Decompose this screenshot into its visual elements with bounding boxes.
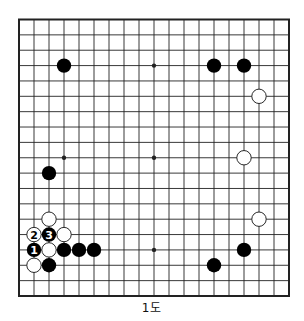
white-stone-icon xyxy=(57,227,71,241)
move-number-label: 2 xyxy=(30,229,38,242)
white-stone xyxy=(237,151,251,165)
black-stone xyxy=(57,243,71,257)
white-stone xyxy=(252,89,266,103)
black-stone xyxy=(207,58,221,72)
move-number-label: 3 xyxy=(45,229,53,242)
black-stone-icon xyxy=(237,58,251,72)
star-point-icon xyxy=(152,63,156,67)
black-stone xyxy=(72,243,86,257)
star-point-icon xyxy=(152,248,156,252)
white-stone xyxy=(57,227,71,241)
black-stone xyxy=(42,166,56,180)
black-stone xyxy=(237,58,251,72)
white-stone-icon xyxy=(42,212,56,226)
white-stone-icon xyxy=(237,151,251,165)
black-stone-icon xyxy=(57,243,71,257)
white-stone xyxy=(42,243,56,257)
move-number-label: 1 xyxy=(30,244,38,257)
black-stone-icon xyxy=(57,58,71,72)
black-stone-icon xyxy=(207,258,221,272)
black-stone xyxy=(87,243,101,257)
white-stone-move-2: 2 xyxy=(27,227,41,241)
white-stone xyxy=(42,212,56,226)
white-stone-icon xyxy=(252,212,266,226)
black-stone-icon xyxy=(72,243,86,257)
black-stone-icon xyxy=(87,243,101,257)
diagram-caption: 1도 xyxy=(0,298,304,315)
black-stone xyxy=(57,58,71,72)
star-point-icon xyxy=(62,156,66,160)
black-stone-move-3: 3 xyxy=(42,227,56,241)
black-stone-icon xyxy=(237,243,251,257)
black-stone xyxy=(237,243,251,257)
star-point-icon xyxy=(152,156,156,160)
go-board: 231 xyxy=(0,0,304,298)
white-stone xyxy=(252,212,266,226)
black-stone xyxy=(207,258,221,272)
black-stone-icon xyxy=(42,166,56,180)
white-stone-icon xyxy=(252,89,266,103)
black-stone xyxy=(42,258,56,272)
stones-layer: 231 xyxy=(27,58,266,272)
black-stone-icon xyxy=(207,58,221,72)
white-stone-icon xyxy=(27,258,41,272)
black-stone-icon xyxy=(42,258,56,272)
white-stone xyxy=(27,258,41,272)
black-stone-move-1: 1 xyxy=(27,243,41,257)
white-stone-icon xyxy=(42,243,56,257)
